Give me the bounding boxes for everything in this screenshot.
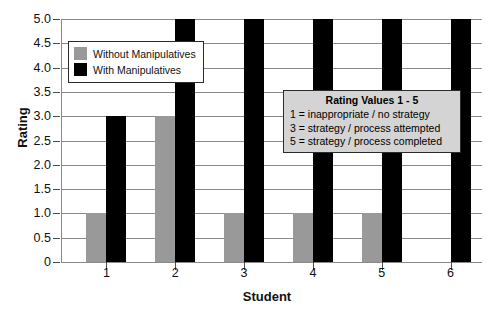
y-tick-right	[474, 116, 482, 117]
legend-label-without: Without Manipulatives	[93, 48, 196, 60]
x-axis-tick-label: 2	[155, 266, 195, 280]
rating-values-annotation: Rating Values 1 - 5 1 = inappropriate / …	[283, 90, 461, 153]
y-tick-right	[474, 238, 482, 239]
y-axis-tick-label: 2.0	[11, 159, 51, 172]
annotation-title: Rating Values 1 - 5	[290, 94, 454, 107]
annotation-line-3: 5 = strategy / process completed	[290, 135, 454, 148]
legend-item-with: With Manipulatives	[74, 62, 198, 77]
y-axis-title: Rating	[15, 88, 30, 168]
x-axis-title: Student	[60, 289, 474, 304]
y-axis-tick-label: 3.0	[11, 110, 51, 123]
bar-chart: Rating Student 00.51.01.52.02.53.03.54.0…	[0, 0, 494, 316]
y-tick	[53, 68, 60, 69]
y-tick	[53, 43, 60, 44]
y-tick-right	[474, 189, 482, 190]
y-tick	[53, 92, 60, 93]
y-tick-right	[474, 141, 482, 142]
y-tick-right	[474, 262, 482, 263]
y-axis-tick-label: 4.5	[11, 37, 51, 50]
x-axis-tick-label: 6	[431, 266, 471, 280]
legend-swatch-without-icon	[74, 47, 87, 60]
y-tick	[53, 262, 60, 263]
y-axis-tick-label: 5.0	[11, 13, 51, 26]
y-tick-right	[474, 213, 482, 214]
y-tick-right	[474, 68, 482, 69]
legend-item-without: Without Manipulatives	[74, 46, 198, 61]
bar-with-student-3	[244, 19, 264, 262]
bar-with-student-1	[106, 116, 126, 262]
bar-without-student-4	[293, 213, 313, 262]
bar-without-student-3	[224, 213, 244, 262]
legend-label-with: With Manipulatives	[93, 64, 181, 76]
y-tick	[53, 189, 60, 190]
y-tick	[53, 141, 60, 142]
x-axis-tick-label: 3	[224, 266, 264, 280]
annotation-line-1: 1 = inappropriate / no strategy	[290, 108, 454, 121]
y-axis-tick-label: 1.0	[11, 207, 51, 220]
y-tick	[53, 19, 60, 20]
y-tick	[53, 116, 60, 117]
y-tick	[53, 238, 60, 239]
y-tick-right	[474, 92, 482, 93]
y-tick-right	[474, 43, 482, 44]
legend-swatch-with-icon	[74, 63, 87, 76]
y-axis-tick-label: 0	[11, 256, 51, 269]
y-axis-tick-label: 0.5	[11, 232, 51, 245]
y-axis-tick-label: 4.0	[11, 62, 51, 75]
bar-without-student-1	[86, 213, 106, 262]
y-tick-right	[474, 165, 482, 166]
y-axis-tick-label: 1.5	[11, 183, 51, 196]
bar-without-student-2	[155, 116, 175, 262]
y-axis-tick-label: 3.5	[11, 86, 51, 99]
bar-without-student-5	[362, 213, 382, 262]
y-axis-tick-label: 2.5	[11, 135, 51, 148]
y-tick	[53, 165, 60, 166]
x-axis-tick-label: 1	[86, 266, 126, 280]
x-axis-tick-label: 5	[362, 266, 402, 280]
gridline	[61, 262, 474, 263]
annotation-line-2: 3 = strategy / process attempted	[290, 122, 454, 135]
y-tick	[53, 213, 60, 214]
legend: Without Manipulatives With Manipulatives	[68, 41, 204, 83]
x-axis-tick-label: 4	[293, 266, 333, 280]
y-tick-right	[474, 19, 482, 20]
gridline	[61, 19, 474, 20]
